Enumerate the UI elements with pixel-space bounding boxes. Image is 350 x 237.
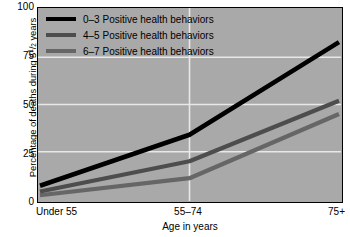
y-axis-ticks: 100 75 50 25 0: [0, 0, 34, 237]
legend-swatch-icon: [46, 17, 76, 21]
legend-item: 6–7 Positive health behaviors: [46, 43, 214, 59]
x-axis-title: Age in years: [37, 221, 343, 232]
legend-item-label: 4–5 Positive health behaviors: [83, 30, 214, 41]
x-axis-ticks: Under 55 55–74 75+: [37, 206, 343, 220]
plot-area: 0–3 Positive health behaviors 4–5 Positi…: [37, 7, 343, 203]
chart-legend: 0–3 Positive health behaviors 4–5 Positi…: [46, 11, 214, 59]
legend-item-label: 0–3 Positive health behaviors: [83, 14, 214, 25]
legend-swatch-icon: [46, 33, 76, 37]
x-tick-label: 75+: [328, 206, 345, 217]
x-tick-label: 55–74: [174, 206, 202, 217]
y-tick-label: 75: [8, 51, 34, 61]
y-tick-label: 25: [8, 149, 34, 159]
legend-swatch-icon: [46, 49, 76, 53]
x-tick-label: Under 55: [36, 206, 77, 217]
y-tick-label: 0: [8, 197, 34, 207]
chart-figure: Percentage of deaths during 51/2 years 1…: [0, 0, 350, 237]
y-tick-label: 50: [8, 100, 34, 110]
legend-item-label: 6–7 Positive health behaviors: [83, 46, 214, 57]
legend-item: 0–3 Positive health behaviors: [46, 11, 214, 27]
legend-item: 4–5 Positive health behaviors: [46, 27, 214, 43]
y-tick-label: 100: [8, 2, 34, 12]
